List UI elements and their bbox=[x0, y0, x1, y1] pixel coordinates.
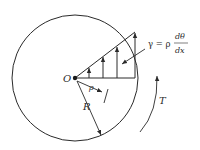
rho-label: ρ bbox=[88, 83, 94, 92]
torque-arrow bbox=[140, 76, 157, 132]
gamma-fraction-denominator: dx bbox=[175, 46, 185, 55]
torque-label: T bbox=[159, 95, 167, 106]
origin-point bbox=[73, 76, 77, 80]
gamma-leader bbox=[122, 49, 145, 64]
gamma-fraction-numerator: dθ bbox=[175, 32, 185, 41]
gamma-equation-lhs: γ = ρ bbox=[148, 39, 171, 49]
strain-envelope bbox=[75, 32, 135, 78]
origin-label: O bbox=[63, 73, 71, 84]
torsion-diagram: O ρ R T γ = ρ dθ dx bbox=[0, 0, 200, 150]
rho-tick bbox=[104, 89, 108, 103]
radius-label: R bbox=[82, 101, 91, 112]
